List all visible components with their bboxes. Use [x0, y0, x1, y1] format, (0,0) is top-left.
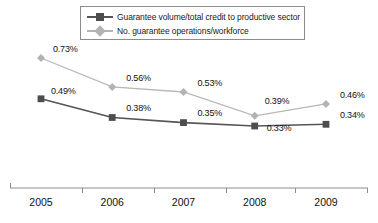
data-label-volume-2008: 0.33%: [267, 123, 292, 133]
x-axis: [10, 183, 368, 193]
data-point-marker: [108, 83, 116, 91]
data-label-operations-2009: 0.46%: [340, 90, 365, 100]
data-label-operations-2008: 0.39%: [265, 96, 290, 106]
data-point-marker: [322, 100, 330, 108]
data-label-volume-2009: 0.34%: [340, 110, 365, 120]
data-label-volume-2006: 0.38%: [126, 103, 151, 113]
plot-area: [0, 0, 378, 223]
x-tick-label-2005: 2005: [13, 196, 69, 208]
data-point-marker: [37, 54, 45, 62]
data-point-marker: [109, 114, 116, 121]
line-chart: Guarantee volume/total credit to product…: [0, 0, 378, 223]
x-tick-label-2006: 2006: [84, 196, 140, 208]
data-point-marker: [38, 95, 45, 102]
data-label-operations-2007: 0.53%: [198, 78, 223, 88]
data-point-marker: [323, 121, 330, 128]
data-label-volume-2005: 0.49%: [51, 86, 76, 96]
data-point-marker: [180, 88, 188, 96]
data-label-operations-2005: 0.73%: [53, 44, 78, 54]
data-point-marker: [180, 119, 187, 126]
data-point-marker: [251, 112, 259, 120]
x-tick-label-2009: 2009: [298, 196, 354, 208]
x-tick-label-2008: 2008: [227, 196, 283, 208]
data-point-marker: [251, 123, 258, 130]
data-label-operations-2006: 0.56%: [126, 73, 151, 83]
x-tick-label-2007: 2007: [156, 196, 212, 208]
data-label-volume-2007: 0.35%: [198, 108, 223, 118]
